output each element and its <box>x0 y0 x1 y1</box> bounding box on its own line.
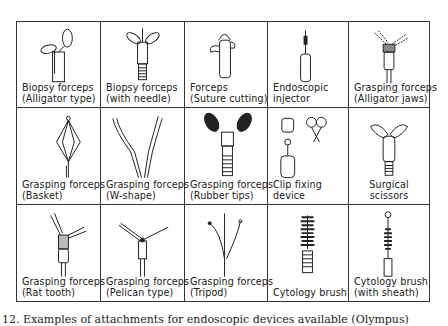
biopsy-forceps-alligator-icon <box>17 26 100 84</box>
grasping-forceps-alligator-jaws-icon <box>349 26 429 84</box>
cell-pelican-forceps: Grasping forceps(Pelican type) <box>101 205 185 301</box>
clip-fixing-device-icon <box>268 112 348 180</box>
instrument-label: Surgicalscissors <box>349 179 429 201</box>
surgical-scissors-icon <box>349 112 429 180</box>
biopsy-forceps-needle-icon <box>101 26 184 84</box>
cell-w-shape-forceps: Grasping forceps(W-shape) <box>101 108 185 205</box>
cell-basket-forceps: Grasping forceps(Basket) <box>17 108 101 205</box>
cell-endoscopic-injector: Endoscopicinjector <box>268 22 349 108</box>
pelican-forceps-icon <box>101 209 184 277</box>
cell-clip-fixing-device: Clip fixingdevice <box>268 108 349 205</box>
cytology-brush-sheath-icon <box>349 209 429 277</box>
instrument-label: Biopsy forceps(with needle) <box>106 82 182 104</box>
cytology-brush-icon <box>268 209 348 277</box>
instrument-label: Cytology brush(with sheath) <box>354 276 427 298</box>
cell-grasping-forceps-alligator-jaws: Grasping forceps(Alligator jaws) <box>349 22 429 108</box>
figure-caption: 12. Examples of attachments for endoscop… <box>2 313 409 326</box>
cell-surgical-scissors: Surgicalscissors <box>349 108 429 205</box>
cell-cytology-brush-sheath: Cytology brush(with sheath) <box>349 205 429 301</box>
w-shape-forceps-icon <box>101 112 184 180</box>
rubber-tip-forceps-icon <box>185 112 267 180</box>
instrument-label: Forceps(Suture cutting) <box>190 82 265 104</box>
instrument-label: Clip fixingdevice <box>273 179 346 201</box>
cell-suture-cutting-forceps: Forceps(Suture cutting) <box>185 22 268 108</box>
instrument-table: Biopsy forceps(Alligator type) Biopsy fo… <box>16 21 430 302</box>
cell-rat-tooth-forceps: Grasping forceps(Rat tooth) <box>17 205 101 301</box>
instrument-label: Grasping forceps(Tripod) <box>190 276 265 298</box>
instrument-label: Endoscopicinjector <box>273 82 346 104</box>
instrument-label: Grasping forceps(Rat tooth) <box>22 276 98 298</box>
instrument-label: Grasping forceps(Alligator jaws) <box>354 82 427 104</box>
cell-rubber-tip-forceps: Grasping forceps(Rubber tips) <box>185 108 268 205</box>
endoscopic-injector-icon <box>268 26 348 84</box>
cell-biopsy-forceps-alligator: Biopsy forceps(Alligator type) <box>17 22 101 108</box>
cell-cytology-brush: Cytology brush <box>268 205 349 301</box>
cell-tripod-forceps: Grasping forceps(Tripod) <box>185 205 268 301</box>
suture-cutting-forceps-icon <box>185 26 267 84</box>
basket-forceps-icon <box>17 112 100 180</box>
instrument-label: Grasping forceps(W-shape) <box>106 179 182 201</box>
rat-tooth-forceps-icon <box>17 209 100 277</box>
instrument-label: Grasping forceps(Pelican type) <box>106 276 182 298</box>
instrument-label: Cytology brush <box>273 287 346 298</box>
tripod-forceps-icon <box>185 209 267 277</box>
instrument-label: Grasping forceps(Basket) <box>22 179 98 201</box>
instrument-label: Biopsy forceps(Alligator type) <box>22 82 98 104</box>
instrument-label: Grasping forceps(Rubber tips) <box>190 179 265 201</box>
cell-biopsy-forceps-needle: Biopsy forceps(with needle) <box>101 22 185 108</box>
